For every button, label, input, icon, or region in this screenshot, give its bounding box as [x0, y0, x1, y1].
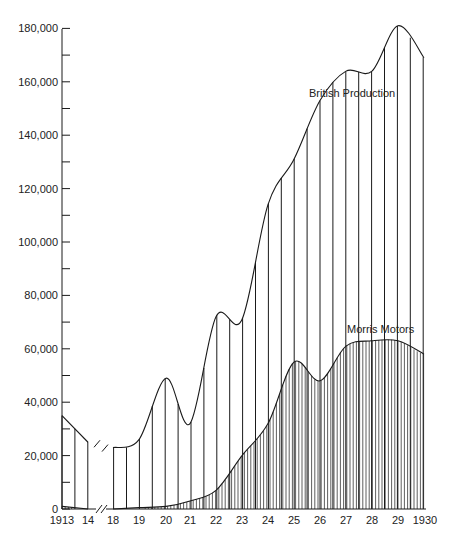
x-tick-label: 28	[366, 514, 378, 526]
y-tick-label: 20,000	[24, 450, 58, 462]
x-tick-label: 18	[107, 514, 119, 526]
x-axis: 1913141819202122232425262728291930	[50, 509, 437, 526]
x-tick-label: 27	[340, 514, 352, 526]
y-tick-label: 140,000	[18, 129, 58, 141]
x-tick-label: 1913	[50, 514, 74, 526]
y-axis: 020,00040,00060,00080,000100,000120,0001…	[18, 22, 70, 515]
x-tick-label: 21	[184, 514, 196, 526]
x-tick-label: 26	[314, 514, 326, 526]
x-tick-label: 20	[160, 514, 172, 526]
x-tick-label: 1930	[413, 514, 437, 526]
y-tick-label: 180,000	[18, 22, 58, 34]
y-tick-label: 160,000	[18, 76, 58, 88]
x-tick-label: 23	[236, 514, 248, 526]
x-tick-label: 14	[82, 514, 94, 526]
x-tick-label: 24	[262, 514, 274, 526]
morris-motors-label: Morris Motors	[347, 323, 415, 335]
x-tick-label: 19	[133, 514, 145, 526]
y-tick-label: 80,000	[24, 289, 58, 301]
production-chart: 020,00040,00060,00080,000100,000120,0001…	[0, 0, 455, 541]
x-tick-label: 29	[392, 514, 404, 526]
y-tick-label: 60,000	[24, 343, 58, 355]
british-production-label: British Production	[309, 87, 395, 99]
axis-break-mark	[94, 440, 108, 513]
y-tick-label: 100,000	[18, 236, 58, 248]
y-tick-label: 120,000	[18, 183, 58, 195]
y-tick-label: 40,000	[24, 396, 58, 408]
x-tick-label: 22	[210, 514, 222, 526]
x-tick-label: 25	[288, 514, 300, 526]
